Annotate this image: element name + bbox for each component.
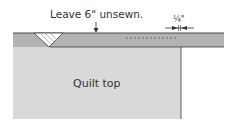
- binding-diagram: Leave 6" unsewn. ¼" Quilt top: [0, 0, 233, 125]
- unsewn-arrow: [94, 22, 99, 33]
- unsewn-label: Leave 6" unsewn.: [50, 8, 143, 20]
- seam-allowance-dimension: [165, 25, 194, 31]
- seam-allowance-label: ¼": [173, 15, 184, 24]
- quilt-top-label: Quilt top: [73, 77, 121, 90]
